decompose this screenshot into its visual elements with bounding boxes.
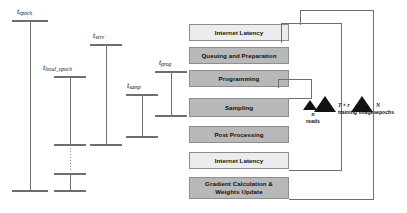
loop-wire-epochs-bottom [289, 199, 374, 200]
bracket-label-epoch: tepoch [17, 7, 32, 16]
bracket-subscript-samp: samp [129, 84, 141, 90]
stage-box-queuing-and-preparation[interactable]: Queuing and Preparation [189, 47, 289, 64]
loop-wire-epochs-left [300, 10, 301, 25]
bracket-stem [142, 94, 143, 138]
loop-wire-epochs-top [300, 10, 374, 11]
bracket-cap-bottom [54, 144, 86, 146]
loop-wire-reads-bottom [289, 98, 312, 99]
stage-box-internet-latency-top[interactable]: Internet Latency [189, 24, 289, 41]
bracket-label-serv: tserv [93, 31, 104, 40]
bracket-subscript-local-epoch: local_epoch [45, 66, 72, 72]
stage-label: Sampling [225, 104, 253, 112]
bracket-cap-bottom [155, 115, 187, 117]
bracket-cap-bottom [54, 190, 86, 192]
stage-box-sampling[interactable]: Sampling [189, 98, 289, 117]
loop-marker-training-images [314, 96, 336, 112]
timing-bracket-prog [155, 71, 187, 117]
loop-marker-epochs [351, 96, 373, 112]
bracket-stem [30, 20, 31, 192]
bracket-stem [70, 76, 71, 146]
bracket-subscript-serv: serv [95, 34, 104, 40]
stage-label-line2: Weights Update [215, 188, 262, 196]
diagram-canvas: tepoch tlocal_epoch tserv tsamp tpro [0, 0, 407, 213]
stage-label: Internet Latency [215, 29, 264, 37]
stage-box-post-processing[interactable]: Post Processing [189, 126, 289, 143]
stage-label: Queuing and Preparation [201, 52, 276, 60]
stage-label: Post Processing [214, 131, 263, 139]
loop-annotation-reads: n reads [303, 111, 323, 125]
timing-bracket-samp [126, 94, 158, 138]
timing-bracket-serv [90, 44, 122, 146]
loop-unit-reads: reads [306, 118, 320, 124]
loop-wire-epochs-right [373, 10, 374, 200]
bracket-cap-bottom [90, 144, 122, 146]
bracket-ellipsis [70, 148, 71, 172]
bracket-cap-bottom [126, 136, 158, 138]
stage-label: Internet Latency [215, 157, 264, 165]
loop-unit-epochs: epochs [376, 109, 394, 115]
bracket-label-prog: tprog [159, 58, 171, 67]
loop-count-training-images: T × r [338, 102, 350, 108]
loop-wire-training-left [281, 23, 282, 43]
stage-label: Programming [219, 75, 260, 83]
bracket-label-local-epoch: tlocal_epoch [43, 63, 72, 72]
bracket-subscript-prog: prog [161, 61, 171, 67]
bracket-cap-bottom [12, 190, 48, 192]
bracket-subscript-epoch: epoch [19, 10, 32, 16]
timing-bracket-local-epoch-lower [54, 173, 86, 192]
bracket-label-samp: tsamp [127, 81, 141, 90]
loop-annotation-epochs: N epochs [376, 102, 404, 116]
stage-box-internet-latency-bottom[interactable]: Internet Latency [189, 152, 289, 169]
loop-wire-training-top [281, 23, 342, 24]
loop-wire-reads-top [278, 79, 312, 80]
stage-box-gradient-calculation[interactable]: Gradient Calculation & Weights Update [189, 177, 289, 199]
stage-label-line1: Gradient Calculation & [205, 180, 273, 188]
bracket-stem [106, 44, 107, 146]
stage-box-programming[interactable]: Programming [189, 70, 289, 87]
loop-wire-training-bottom [289, 170, 342, 171]
loop-wire-reads-left [278, 79, 279, 88]
loop-count-epochs: N [376, 102, 380, 108]
bracket-stem [171, 71, 172, 117]
loop-wire-reads-right [311, 79, 312, 99]
loop-wire-training-right [341, 23, 342, 171]
timing-bracket-epoch [12, 20, 48, 192]
timing-bracket-local-epoch-upper [54, 76, 86, 146]
